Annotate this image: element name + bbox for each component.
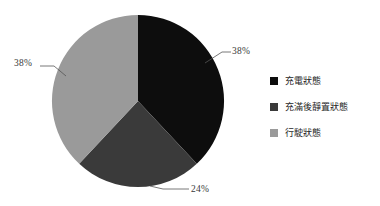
legend: 充電狀態 充滿後靜置狀態 行駛狀態 <box>270 68 378 146</box>
legend-item-label: 充電狀態 <box>285 76 321 87</box>
legend-swatch-icon <box>270 77 278 85</box>
legend-item-label: 行駛狀態 <box>285 128 321 139</box>
pie-chart: 38% 38% 24% 充電狀態 充滿後靜置狀態 行駛狀態 <box>0 0 380 206</box>
leader-line-bottom <box>150 186 189 189</box>
slice-label-driving: 38% <box>14 58 32 68</box>
legend-swatch-icon <box>270 129 278 137</box>
slice-label-charging: 38% <box>232 46 250 56</box>
slice-label-idle-after-full: 24% <box>191 184 209 194</box>
legend-swatch-icon <box>270 103 278 111</box>
legend-item-charging[interactable]: 充電狀態 <box>270 68 378 94</box>
legend-item-idle-after-full[interactable]: 充滿後靜置狀態 <box>270 94 378 120</box>
legend-item-driving[interactable]: 行駛狀態 <box>270 120 378 146</box>
legend-item-label: 充滿後靜置狀態 <box>285 102 348 113</box>
